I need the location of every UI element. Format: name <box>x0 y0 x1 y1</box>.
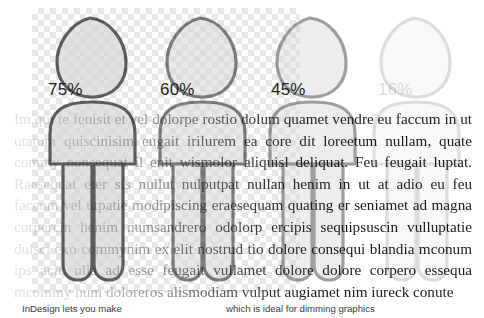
opacity-label-16: 16% <box>378 80 413 100</box>
body-paragraph: Im qui te feuisit et vel dolorpe rostio … <box>14 108 472 302</box>
opacity-label-60: 60% <box>160 80 195 100</box>
opacity-label-75: 75% <box>48 80 83 100</box>
caption-left: InDesign lets you make <box>22 303 122 314</box>
gradient-faded-body-text: Im qui te feuisit et vel dolorpe rostio … <box>14 108 472 302</box>
caption-right: which is ideal for dimming graphics <box>226 303 375 314</box>
transparency-demo-canvas: 75% 60% 45% 16% Im qui te feuisit et vel… <box>0 0 484 318</box>
opacity-label-45: 45% <box>271 80 306 100</box>
